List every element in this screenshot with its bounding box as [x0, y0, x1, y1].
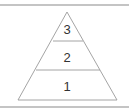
tier-label-1: 1: [63, 79, 70, 94]
pyramid-diagram: 3 2 1: [0, 0, 129, 112]
tier-label-3: 3: [63, 22, 70, 37]
tier-label-2: 2: [63, 50, 70, 65]
